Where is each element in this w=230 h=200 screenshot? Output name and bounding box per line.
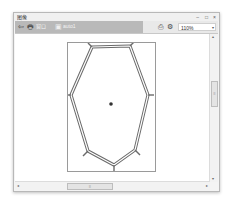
chevron-down-icon: ▾: [212, 24, 214, 32]
back-icon[interactable]: ⇦: [17, 23, 24, 30]
maximize-button[interactable]: □: [205, 13, 208, 21]
center-dot: [109, 102, 113, 106]
document-tab[interactable]: auto1: [63, 23, 76, 30]
toolbar-left-group: ⇦ 🖶 窗口 ▣ auto1: [15, 21, 143, 33]
print-icon-right[interactable]: ⎙: [157, 23, 164, 30]
cell-drawing: [68, 43, 155, 171]
title-bar[interactable]: 图像 – □ ×: [14, 13, 219, 21]
document-canvas[interactable]: [15, 34, 210, 182]
scroll-down-arrow-icon[interactable]: ▾: [212, 177, 214, 181]
document-page: [67, 42, 156, 172]
close-button[interactable]: ×: [213, 13, 216, 21]
zoom-value: 110%: [181, 25, 193, 31]
scroll-right-arrow-icon[interactable]: ▸: [206, 184, 208, 188]
print-icon[interactable]: 🖶: [27, 23, 34, 30]
settings-icon[interactable]: ⚙: [166, 23, 173, 30]
horizontal-scroll-thumb[interactable]: ≡: [67, 183, 113, 190]
vertical-scrollbar[interactable]: ▴ ≡ ▾: [209, 34, 218, 182]
toolbar: ⇦ 🖶 窗口 ▣ auto1 ⎙ ⚙ 110% ▾: [15, 21, 218, 34]
tab-window[interactable]: 窗口: [36, 23, 46, 30]
scroll-left-arrow-icon[interactable]: ◂: [17, 184, 19, 188]
vertical-scroll-thumb[interactable]: ≡: [211, 81, 218, 107]
window-title: 图像: [17, 13, 27, 21]
viewer-window: 图像 – □ × ⇦ 🖶 窗口 ▣ auto1 ⎙ ⚙ 110% ▾: [13, 12, 220, 192]
document-icon: ▣: [55, 23, 62, 30]
scroll-up-arrow-icon[interactable]: ▴: [212, 35, 214, 39]
horizontal-scrollbar[interactable]: ◂ ≡ ▸: [15, 181, 210, 190]
grip-icon: ≡: [213, 91, 215, 96]
minimize-button[interactable]: –: [196, 13, 199, 21]
zoom-dropdown[interactable]: 110% ▾: [178, 23, 216, 31]
grip-icon: ≡: [89, 184, 91, 189]
